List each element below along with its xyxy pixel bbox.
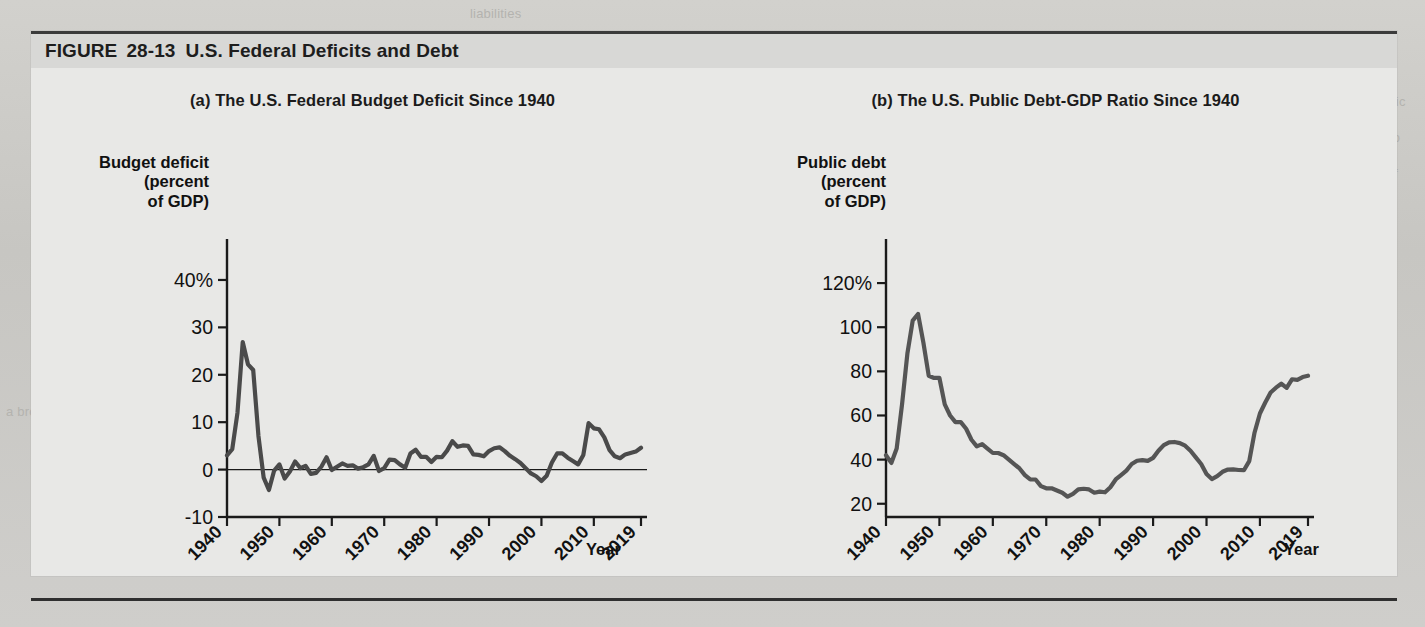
figure-container: FIGURE28-13U.S. Federal Deficits and Deb… [31,31,1397,576]
figure-title-text: U.S. Federal Deficits and Debt [186,40,459,61]
y-tick-label: 10 [191,411,213,433]
x-tick-label: 1980 [1056,522,1098,564]
y-tick-label: 100 [839,316,872,338]
panels-row: (a) The U.S. Federal Budget Deficit Sinc… [31,65,1397,576]
panel-a-plot: -10010203040%194019501960197019801990200… [31,65,714,576]
y-tick-label: 0 [202,459,213,481]
x-tick-label: 1990 [1109,522,1151,564]
footer-rule [31,598,1397,601]
y-tick-label: 30 [191,316,213,338]
panel-b-x-axis-label: Year [1284,540,1319,559]
panel-a-x-axis-label: Year [586,540,621,559]
x-tick-label: 1990 [445,522,487,564]
x-tick-label: 1950 [896,522,938,564]
data-line [886,314,1308,497]
x-tick-label: 2010 [1216,522,1258,564]
x-tick-label: 1960 [949,522,991,564]
x-tick-label: 1950 [236,522,278,564]
x-tick-label: 1980 [393,522,435,564]
y-tick-label: 120% [822,272,872,294]
x-tick-label: 1940 [842,522,884,564]
y-tick-label: 20 [191,364,213,386]
x-tick-label: 1970 [1003,522,1045,564]
data-line [227,342,641,490]
panel-b-plot: 20406080100120%1940195019601970198019902… [714,65,1397,576]
panel-a: (a) The U.S. Federal Budget Deficit Sinc… [31,65,714,576]
x-tick-label: 1970 [341,522,383,564]
background-text-line1: liabilities [470,6,521,21]
x-tick-label: 1960 [288,522,330,564]
y-tick-label: 80 [850,360,872,382]
figure-label: FIGURE [45,40,117,61]
x-tick-label: 2000 [498,522,540,564]
y-tick-label: 60 [850,404,872,426]
figure-number: 28-13 [126,40,175,61]
x-tick-label: 2000 [1163,522,1205,564]
y-tick-label: 40% [174,269,213,291]
x-tick-label: 1940 [183,522,225,564]
figure-title: FIGURE28-13U.S. Federal Deficits and Deb… [31,40,459,62]
figure-title-bar: FIGURE28-13U.S. Federal Deficits and Deb… [31,31,1397,68]
panel-b: (b) The U.S. Public Debt-GDP Ratio Since… [714,65,1397,576]
y-tick-label: 20 [850,493,872,515]
y-tick-label: 40 [850,449,872,471]
